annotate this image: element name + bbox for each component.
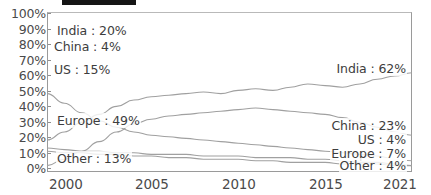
chart-page: 100% 90% 80% 70% 60% 50% 40% 30% 20% 10%… <box>0 0 431 195</box>
x-tick-label-2010: 2010 <box>222 176 256 192</box>
y-tick-label-90: 90% <box>2 24 46 37</box>
y-tick-label-80: 80% <box>2 39 46 52</box>
y-tick-label-30: 30% <box>2 117 46 130</box>
y-tick-label-100: 100% <box>2 8 46 21</box>
label-right-china: China : 23% <box>330 118 407 133</box>
y-tick-label-20: 20% <box>2 132 46 145</box>
x-tick-label-2021: 2021 <box>383 176 417 192</box>
x-tick-label-2000: 2000 <box>49 176 83 192</box>
label-left-europe: Europe : 49% <box>56 113 141 128</box>
top-black-bar <box>62 0 136 5</box>
label-left-other: Other : 13% <box>56 151 132 166</box>
x-tick-label-2015: 2015 <box>309 176 343 192</box>
y-tick-label-60: 60% <box>2 70 46 83</box>
y-tick-label-0: 0% <box>2 163 46 176</box>
label-left-china: China : 4% <box>53 39 122 54</box>
y-tick-label-40: 40% <box>2 101 46 114</box>
y-tick-label-70: 70% <box>2 55 46 68</box>
y-axis: 100% 90% 80% 70% 60% 50% 40% 30% 20% 10%… <box>0 0 46 195</box>
y-tick-label-10: 10% <box>2 148 46 161</box>
label-right-india: India : 62% <box>335 61 407 76</box>
y-tick-label-50: 50% <box>2 86 46 99</box>
label-right-us: US : 4% <box>357 132 407 147</box>
x-tick-label-2005: 2005 <box>135 176 169 192</box>
label-left-us: US : 15% <box>53 62 111 77</box>
label-left-india: India : 20% <box>56 23 128 38</box>
label-right-other: Other : 4% <box>339 158 407 173</box>
